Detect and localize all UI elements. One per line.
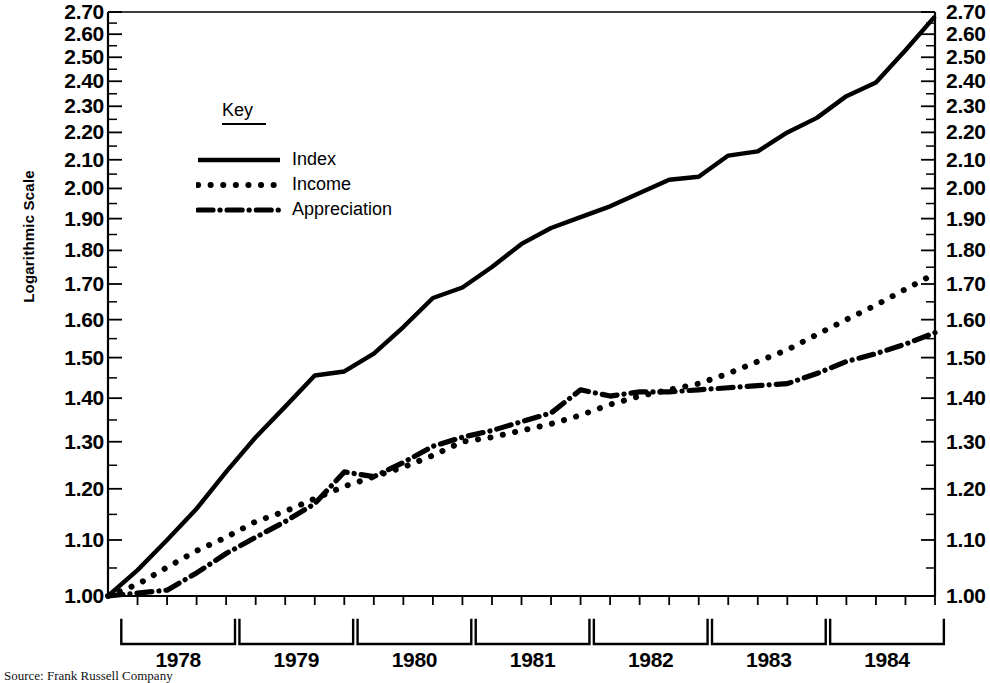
- x-tick-label: 1982: [591, 648, 711, 672]
- legend-item: Appreciation: [196, 197, 406, 222]
- legend-title: Key: [196, 100, 406, 121]
- legend-swatch-solid: [196, 153, 282, 167]
- x-axis-tick-labels: 1978197919801981198219831984: [0, 0, 990, 683]
- legend-item-label: Appreciation: [292, 199, 392, 220]
- x-tick-label: 1979: [236, 648, 356, 672]
- legend-item-label: Index: [292, 149, 336, 170]
- x-tick-label: 1984: [827, 648, 947, 672]
- legend-swatch-dash-dot: [196, 203, 282, 217]
- x-tick-label: 1981: [473, 648, 593, 672]
- legend-title-underline: [222, 123, 266, 125]
- x-tick-label: 1983: [709, 648, 829, 672]
- legend-swatch-dotted: [196, 178, 282, 192]
- legend-item: Index: [196, 147, 406, 172]
- legend: Key IndexIncomeAppreciation: [196, 100, 406, 222]
- legend-items: IndexIncomeAppreciation: [196, 147, 406, 222]
- chart-figure: Logarithmic Scale 1.001.101.201.301.401.…: [0, 0, 990, 683]
- legend-item-label: Income: [292, 174, 351, 195]
- legend-item: Income: [196, 172, 406, 197]
- x-tick-label: 1980: [354, 648, 474, 672]
- source-note: Source: Frank Russell Company: [4, 668, 173, 683]
